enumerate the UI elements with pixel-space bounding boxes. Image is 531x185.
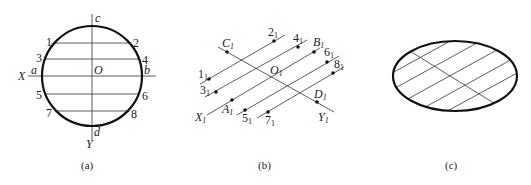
- label-b1: B1: [313, 35, 324, 50]
- label-8: 8: [131, 107, 137, 121]
- label-a: a: [31, 63, 37, 77]
- point-3: [214, 90, 218, 94]
- caption-b: (b): [258, 159, 271, 172]
- label-center-o1: O1: [270, 63, 283, 78]
- label-3: 3: [36, 51, 42, 65]
- caption-c: (c): [445, 159, 458, 172]
- label-d: d: [94, 125, 101, 139]
- label-c: c: [95, 11, 101, 25]
- point-a1: [230, 98, 234, 102]
- label-7: 7: [46, 106, 52, 120]
- label-1-1: 11: [198, 67, 208, 82]
- point-c1: [225, 50, 229, 54]
- label-3-1: 31: [200, 83, 210, 98]
- label-axis-y: Y: [86, 137, 94, 151]
- caption-a: (a): [81, 159, 94, 172]
- label-1: 1: [46, 35, 52, 49]
- figure-a: c d a b O X Y 1 2 3 4 5 6 7 8 (a): [17, 11, 156, 172]
- label-axis-x: X: [17, 69, 26, 83]
- label-5: 5: [36, 88, 42, 102]
- figure-c: (c): [385, 30, 530, 172]
- label-c1: C1: [222, 36, 234, 51]
- label-8-1: 81: [334, 57, 344, 72]
- label-6-1: 61: [324, 45, 334, 60]
- figure-b: C1 D1 A1 B1 O1 X1 Y1 11 21 31 41 51 61 7…: [194, 25, 344, 172]
- point-8: [331, 71, 335, 75]
- point-b1: [312, 50, 316, 54]
- label-a1: A1: [221, 102, 233, 117]
- label-center-o: O: [94, 63, 103, 77]
- label-axis-y1: Y1: [318, 110, 329, 125]
- label-4: 4: [142, 53, 148, 67]
- label-6: 6: [142, 89, 148, 103]
- label-2-1: 21: [268, 25, 278, 40]
- chord-4: [420, 52, 525, 110]
- label-4-1: 41: [293, 31, 303, 46]
- label-7-1: 71: [265, 113, 275, 128]
- ellipse-outline: [393, 41, 517, 111]
- label-2: 2: [133, 36, 139, 50]
- label-d1: D1: [313, 87, 327, 102]
- point-6: [325, 60, 329, 64]
- label-5-1: 51: [242, 111, 252, 126]
- hatch-lines: [385, 30, 530, 115]
- label-axis-x1: X1: [194, 110, 206, 125]
- diagram-canvas: c d a b O X Y 1 2 3 4 5 6 7 8 (a): [0, 0, 531, 185]
